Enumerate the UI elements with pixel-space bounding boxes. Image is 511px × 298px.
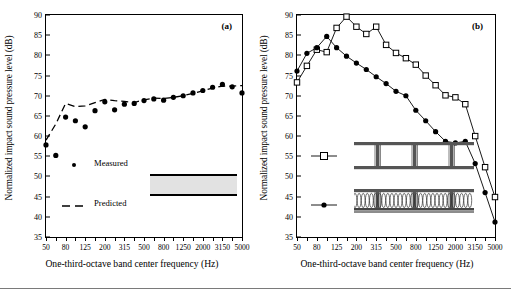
y-tick-label: 80	[285, 51, 297, 60]
y-tick-mark	[297, 156, 301, 157]
y-tick-mark	[46, 75, 50, 76]
x-tick-mark	[327, 237, 328, 241]
assembly-diagram-insulated-joist	[354, 187, 474, 223]
data-point	[112, 107, 117, 112]
data-point	[374, 24, 379, 29]
x-tick-label: 2000	[195, 237, 210, 252]
data-point	[304, 63, 309, 68]
data-point	[324, 49, 329, 54]
y-tick-label: 65	[285, 111, 297, 120]
x-tick-label: 200	[351, 237, 362, 252]
x-tick-label: 5000	[234, 237, 249, 252]
y-tick-mark	[297, 196, 301, 197]
data-point	[239, 90, 244, 95]
data-point	[423, 118, 428, 123]
y-tick-mark	[46, 176, 50, 177]
slab-diagram-a	[150, 174, 237, 196]
data-point	[463, 102, 468, 107]
x-tick-label: 80	[62, 237, 70, 252]
data-point	[304, 51, 309, 56]
y-tick-mark	[46, 156, 50, 157]
x-tick-mark	[366, 237, 367, 241]
data-point	[230, 84, 235, 89]
data-point	[354, 60, 359, 65]
legend-label-predicted: Predicted	[94, 198, 126, 208]
x-tick-mark	[56, 237, 57, 241]
x-tick-label: 50	[293, 237, 301, 252]
plot-area-a: (a) Measured Predicted 35404550556065707…	[45, 14, 243, 238]
data-point	[92, 108, 97, 113]
x-tick-label: 1250	[428, 237, 443, 252]
data-point	[151, 96, 156, 101]
y-axis-label-b: Normalized impact sound pressure level (…	[257, 0, 271, 236]
data-point	[294, 80, 299, 85]
x-tick-label: 1250	[176, 237, 191, 252]
data-point	[344, 54, 349, 59]
y-tick-label: 75	[285, 71, 297, 80]
y-tick-mark	[297, 136, 301, 137]
data-point	[413, 62, 418, 67]
x-tick-mark	[307, 237, 308, 241]
x-tick-mark	[173, 237, 174, 241]
y-tick-mark	[297, 75, 301, 76]
x-tick-label: 3150	[215, 237, 230, 252]
data-point	[433, 129, 438, 134]
series-line-predicted	[46, 86, 242, 140]
data-point	[473, 133, 478, 138]
x-tick-label: 500	[138, 237, 149, 252]
data-point	[403, 93, 408, 98]
y-tick-label: 55	[34, 152, 46, 161]
legend-label-measured: Measured	[94, 158, 128, 168]
x-tick-label: 315	[370, 237, 381, 252]
x-tick-label: 80	[313, 237, 321, 252]
y-tick-label: 40	[34, 212, 46, 221]
y-tick-label: 75	[34, 71, 46, 80]
data-point	[141, 98, 146, 103]
y-tick-label: 90	[34, 11, 46, 20]
x-tick-mark	[347, 237, 348, 241]
figure-bottom-rule	[0, 288, 511, 289]
y-tick-label: 85	[285, 31, 297, 40]
x-tick-mark	[446, 237, 447, 241]
y-tick-mark	[297, 55, 301, 56]
data-point	[83, 124, 88, 129]
y-tick-label: 55	[285, 152, 297, 161]
legend-marker-predicted	[62, 203, 88, 209]
x-tick-label: 200	[99, 237, 110, 252]
y-tick-mark	[46, 15, 50, 16]
data-point	[344, 14, 349, 19]
data-point	[403, 55, 408, 60]
x-tick-mark	[485, 237, 486, 241]
data-point	[63, 115, 68, 120]
data-point	[384, 81, 389, 86]
legend-marker-measured	[72, 163, 76, 167]
x-tick-mark	[386, 237, 387, 241]
data-point	[73, 118, 78, 123]
y-tick-mark	[46, 95, 50, 96]
y-tick-mark	[46, 216, 50, 217]
y-tick-label: 70	[285, 91, 297, 100]
y-tick-label: 60	[34, 132, 46, 141]
data-point	[483, 190, 488, 195]
y-tick-label: 85	[34, 31, 46, 40]
data-point	[453, 95, 458, 100]
data-point	[314, 45, 319, 50]
data-point	[393, 50, 398, 55]
data-point	[383, 42, 388, 47]
y-tick-label: 90	[285, 11, 297, 20]
chart-panel-a: Normalized impact sound pressure level (…	[0, 0, 255, 276]
x-tick-label: 5000	[487, 237, 502, 252]
y-tick-mark	[46, 136, 50, 137]
data-point	[492, 219, 497, 224]
chart-panel-b: Normalized impact sound pressure level (…	[255, 0, 511, 276]
x-tick-label: 800	[158, 237, 169, 252]
data-point	[374, 74, 379, 79]
x-axis-label-a: One-third-octave band center frequency (…	[18, 258, 246, 269]
x-tick-label: 125	[79, 237, 90, 252]
y-tick-label: 60	[285, 132, 297, 141]
x-tick-mark	[75, 237, 76, 241]
y-tick-mark	[46, 55, 50, 56]
data-point	[433, 83, 438, 88]
x-axis-label-b: One-third-octave band center frequency (…	[273, 258, 501, 269]
y-tick-mark	[297, 35, 301, 36]
